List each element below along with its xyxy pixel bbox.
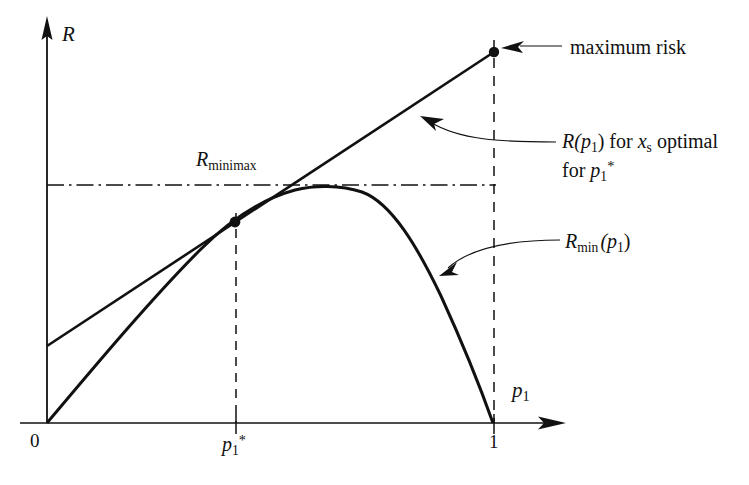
maximum-risk-point-marker	[489, 47, 499, 57]
risk-line-annotation: R(p1) for xs optimal for p1*	[562, 128, 718, 186]
maximum-risk-label: maximum risk	[570, 36, 686, 59]
rmin-paren-close: )	[624, 230, 631, 252]
leader-line-rmin	[448, 240, 560, 268]
x-tick-label-one: 1	[489, 431, 499, 453]
leader-arrow-rmin-icon	[439, 262, 459, 276]
x-axis-label: p1	[512, 378, 530, 405]
risk-curve-rmin	[47, 186, 493, 423]
risk-line-optimal: optimal	[652, 130, 718, 152]
r-minimax-sub: minimax	[208, 158, 256, 173]
leader-arrow-maximum-risk-icon	[501, 41, 524, 53]
rmin-paren-open: (p	[600, 230, 617, 252]
risk-line-for-2: for	[562, 159, 590, 181]
p1-star-base: p	[222, 433, 232, 455]
x-axis-label-base: p	[512, 378, 523, 402]
p1-star-sup: *	[239, 432, 246, 448]
r-minimax-base: R	[196, 148, 208, 170]
leader-arrow-risk-line-icon	[420, 116, 444, 131]
x-axis-label-sub: 1	[523, 388, 530, 404]
p1-star-sub: 1	[232, 443, 239, 458]
x-tick-label-p1-star: p1*	[222, 432, 246, 459]
rmin-annotation: Rmin(p1)	[565, 230, 631, 256]
r-minimax-label: Rminimax	[196, 148, 257, 174]
risk-line-R: R	[562, 130, 574, 152]
rmin-arg-sub: 1	[617, 240, 624, 255]
risk-diagram-svg	[0, 0, 749, 485]
x-tick-label-zero: 0	[30, 430, 40, 452]
risk-line-annotation-row2: for p1*	[562, 157, 718, 186]
figure-canvas: R p1 0 p1* 1 Rminimax maximum risk R(p1)…	[0, 0, 749, 485]
risk-line-for-1: for	[604, 130, 637, 152]
risk-line-p-sub: 1	[591, 140, 598, 155]
risk-line-paren-open: (p	[574, 130, 591, 152]
y-axis-label: R	[62, 22, 75, 47]
rmin-R: R	[565, 230, 577, 252]
risk-line-p1-sup: *	[607, 158, 614, 174]
risk-line-p: p	[590, 159, 600, 181]
risk-line-x: x	[638, 130, 647, 152]
leader-line-risk-line	[430, 122, 556, 142]
risk-line-annotation-row1: R(p1) for xs optimal	[562, 128, 718, 157]
rmin-sub: min	[577, 240, 598, 255]
minimax-tangency-point-marker	[230, 217, 241, 228]
